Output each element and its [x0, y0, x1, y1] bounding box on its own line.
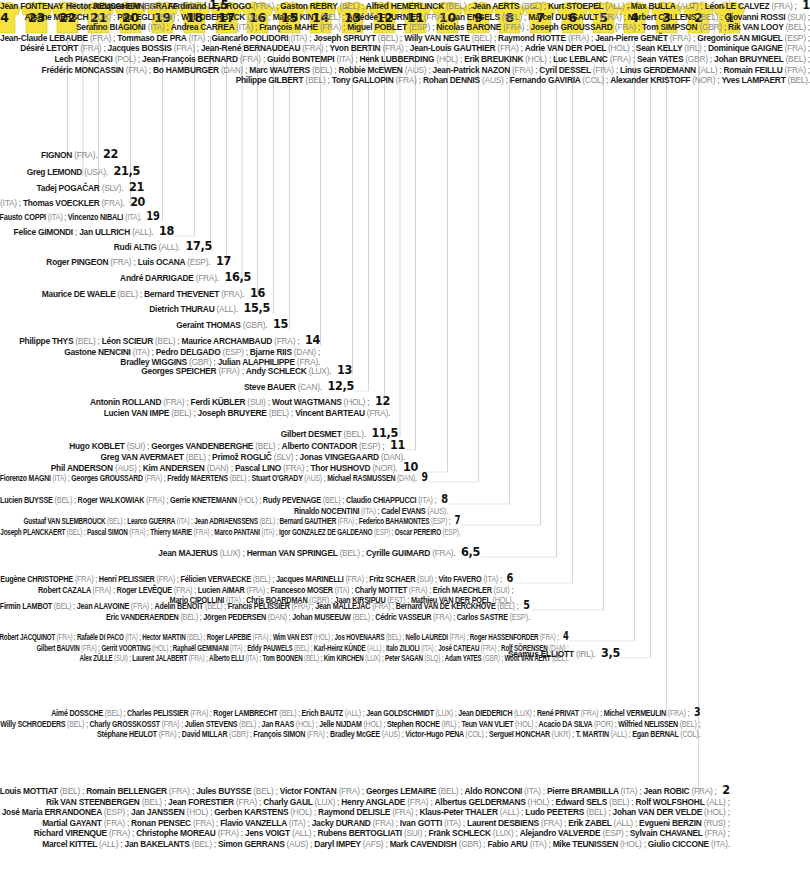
rider-name: Arsène MERSCH	[25, 12, 91, 22]
rider-name: Hector HEUSGHEM	[66, 1, 142, 11]
rider-name: Andrea CARREA	[171, 22, 237, 32]
rider-country: (SLQ)	[425, 653, 441, 663]
rider-country: (ESP)	[374, 527, 390, 537]
rider-country: (FRA)	[307, 729, 325, 739]
value-group-14: Philippe THYS (BEL) ; Léon SCIEUR (BEL) …	[19, 335, 320, 368]
rider-name: Wilfried NELISSEN	[618, 719, 679, 729]
rider-line: (ITA) ; Thomas VOECKLER (FRA). 20	[0, 197, 145, 209]
rider-country: (LUX)	[309, 366, 330, 376]
rider-name: Tom BOONEN	[263, 653, 304, 663]
rider-country: (FRA)	[339, 786, 360, 796]
rider-country: (AUS)	[287, 839, 309, 849]
rider-country: (ITA)	[422, 643, 434, 653]
rider-name: Jacques MARINELLI	[276, 574, 345, 584]
rider-country: (HOL)	[525, 54, 547, 64]
rider-line: André DARRIGADE (FRA). 16,5	[120, 272, 251, 284]
rider-country: (HOL)	[291, 807, 313, 817]
rider-country: (BEL)	[609, 797, 629, 807]
rider-country: (BEL)	[259, 516, 274, 526]
rider-name: Claudio CHIAPPUCCI	[346, 495, 418, 505]
rider-line: Frédéric MONCASSIN (FRA) ; Bo HAMBURGER …	[0, 65, 810, 76]
jersey-count: 20	[126, 194, 145, 209]
rider-line: Gilbert BAUVIN (FRA) ; Gerrit VOORTING (…	[0, 643, 569, 654]
rider-country: (FRA)	[145, 473, 162, 483]
rider-country: (FRA)	[373, 818, 394, 828]
rider-name: Gaston REBRY	[280, 1, 339, 11]
rider-name: Acacio DA SILVA	[538, 719, 593, 729]
rider-name: Gastone NENCINI	[64, 347, 133, 357]
rider-name: Georges LEMAIRE	[366, 786, 438, 796]
rider-country: (FRA)	[481, 643, 497, 653]
rider-country: (FRA)	[541, 818, 562, 828]
rider-name: Rudy PEVENAGE	[263, 495, 323, 505]
rider-country: (BEL)	[698, 12, 718, 22]
rider-country: (BEL)	[230, 473, 247, 483]
jersey-count: 1	[799, 0, 810, 12]
rider-name: Rik VAN LOOY	[728, 22, 785, 32]
rider-line: Felice GIMONDI ; Jan ULLRICH (ALL). 18	[14, 226, 174, 238]
rider-country: (BEL)	[502, 12, 522, 22]
rider-country: (ALL)	[99, 839, 118, 849]
rider-line: Steve BAUER (CAN). 12,5	[244, 381, 354, 393]
rider-line: Serafino BIAGIONI (ITA) ; Andrea CARREA …	[0, 22, 810, 33]
rider-name: Adam YATES	[445, 653, 483, 663]
rider-name: Rubens BERTOGLIATI	[318, 828, 405, 838]
rider-country: (FRA)	[169, 786, 190, 796]
rider-name: Willi OBERBECK	[181, 12, 247, 22]
rider-name: Jean-Pierre GENÊT	[595, 33, 670, 43]
rider-name: Firmin LAMBOT	[0, 601, 54, 611]
rider-country: (SUI)	[127, 441, 145, 451]
rider-name: Tadej POGAČAR	[36, 183, 101, 193]
rider-name: Herman VAN SPRINGEL	[247, 548, 340, 558]
rider-name: Joseph SPRUYT	[313, 33, 377, 43]
rider-name: Greg VAN AVERMAET	[101, 452, 186, 462]
rider-country: (ITA)	[176, 516, 189, 526]
rider-name: Vincenzo NIBALI	[68, 212, 125, 222]
rider-name: Ronan PENSEC	[131, 818, 193, 828]
jersey-count: 22	[99, 146, 118, 161]
rider-name: Rohan DENNIS	[423, 75, 482, 85]
rider-country: (BEL)	[378, 33, 398, 43]
rider-country: (IRL)	[441, 719, 456, 729]
rider-name: Serafino BIAGIONI	[76, 22, 148, 32]
rider-name: Norbert CALLENS	[628, 12, 698, 22]
rider-name: Michel VERMEULIN	[603, 708, 667, 718]
rider-name: Francesco MOSER	[270, 585, 334, 595]
value-group-12: Antonin ROLLAND (FRA) ; Ferdi KÜBLER (SU…	[90, 396, 390, 418]
value-group-16: Maurice DE WAELE (BEL) ; Bernard THEVENE…	[42, 288, 265, 300]
rider-country: (BEL)	[67, 719, 84, 729]
rider-name: Aimé DOSSCHE	[51, 708, 105, 718]
rider-country: (SUI)	[157, 12, 175, 22]
rider-country: (FRA)	[407, 797, 428, 807]
rider-country: (HOL)	[528, 797, 550, 807]
rider-country: (HOL)	[187, 807, 209, 817]
rider-country: (AUS)	[405, 65, 427, 75]
rider-country: (HOL)	[608, 43, 630, 53]
rider-line: Philippe GILBERT (BEL) ; Tony GALLOPIN (…	[0, 75, 810, 86]
rider-name: Kurt STOEPEL	[548, 1, 605, 11]
rider-line: Alex ZÜLLE (SUI) ; Laurent JALABERT (FRA…	[0, 653, 569, 664]
rider-line: Dietrich THURAU (ALL). 15,5	[149, 303, 270, 315]
jersey-count: 17,5	[182, 238, 212, 253]
rider-country: (BEL)	[54, 601, 71, 611]
rider-line: Marcel KITTEL (ALL) ; Jan BAKELANTS (BEL…	[0, 839, 730, 850]
rider-country: (ITA)	[125, 212, 140, 222]
rider-name: Fränk SCHLECK	[429, 828, 493, 838]
rider-country: (FRA)	[109, 828, 130, 838]
rider-name: Mike TEUNISSEN	[553, 839, 620, 849]
rider-name: Ivan GOTTI	[400, 818, 444, 828]
rider-name: Romain FEILLU	[723, 65, 784, 75]
rider-country: (RUS)	[704, 818, 726, 828]
rider-line: Greg VAN AVERMAET (BEL) ; Primož ROGLIČ …	[69, 452, 405, 463]
rider-country: (FRA)	[92, 585, 110, 595]
rider-name: Jean-François BERNARD	[142, 54, 240, 64]
rider-line: Eugène CHRISTOPHE (FRA) ; Henri PELISSIE…	[0, 573, 513, 585]
rider-country: (BEL)	[253, 574, 271, 584]
rider-country: (FRA)	[253, 1, 274, 11]
rider-country: (BEL)	[186, 452, 206, 462]
rider-name: Lucien AIMAR	[198, 585, 247, 595]
jersey-count: 11	[386, 437, 405, 452]
rider-name: Laurent DESBIENS	[467, 818, 541, 828]
rider-name: Gilbert DESMET	[281, 429, 344, 439]
rider-country: (LUX)	[435, 708, 452, 718]
